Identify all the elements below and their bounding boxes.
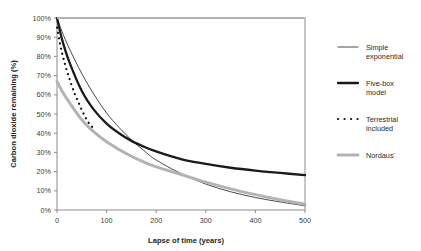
- y-tick-label: 60%: [37, 90, 52, 99]
- y-tick-label: 80%: [37, 52, 52, 61]
- y-tick-label: 100%: [33, 14, 52, 23]
- y-tick-label: 40%: [37, 129, 52, 138]
- x-tick-label: 500: [299, 216, 311, 225]
- x-tick-label: 100: [101, 216, 113, 225]
- x-tick-label: 300: [200, 216, 212, 225]
- y-tick-label: 70%: [37, 71, 52, 80]
- legend-label-1-line1: Simple: [366, 43, 388, 52]
- legend-label-2-line1: Five-box: [366, 79, 394, 88]
- legend-label-3-line1: Terrestrial: [366, 115, 398, 124]
- chart-background: [0, 0, 421, 251]
- x-axis-title: Lapse of time (years): [148, 236, 224, 245]
- chart-figure: 0%10%20%30%40%50%60%70%80%90%100% 010020…: [0, 0, 421, 251]
- x-tick-label: 400: [249, 216, 261, 225]
- legend-label-1-line2: exponential: [366, 52, 404, 61]
- x-tick-label: 0: [55, 216, 59, 225]
- legend-label-3-line2: included: [366, 124, 393, 133]
- y-tick-label: 90%: [37, 33, 52, 42]
- y-tick-label: 50%: [37, 110, 52, 119]
- y-tick-label: 10%: [37, 186, 52, 195]
- y-axis-title: Carbon dioxide remaining (%): [9, 60, 18, 168]
- legend-label-2-line2: model: [366, 88, 386, 97]
- x-tick-label: 200: [150, 216, 162, 225]
- y-tick-label: 20%: [37, 167, 52, 176]
- y-tick-label: 0%: [41, 206, 52, 215]
- legend-label-4-line1: Nordaus': [366, 151, 396, 160]
- y-tick-label: 30%: [37, 148, 52, 157]
- co2-remaining-line-chart: 0%10%20%30%40%50%60%70%80%90%100% 010020…: [0, 0, 421, 251]
